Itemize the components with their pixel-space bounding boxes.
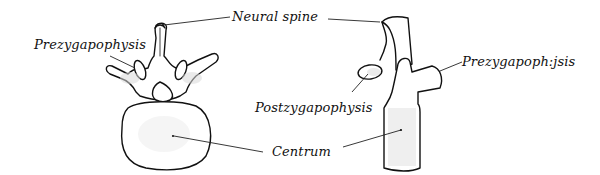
vertebra-diagram: Prezygapophysis Neural spine Prezygapoph…	[0, 0, 600, 175]
label-centrum: Centrum	[272, 145, 331, 158]
label-prezygapophysis-left: Prezygapophysis	[34, 38, 146, 51]
lateral-vertebra	[357, 17, 441, 171]
label-prezygapophysis-right: Prezygapoph:jsis	[462, 55, 575, 68]
label-postzygapophysis: Postzygapophysis	[255, 101, 373, 114]
label-neural-spine: Neural spine	[232, 10, 318, 23]
